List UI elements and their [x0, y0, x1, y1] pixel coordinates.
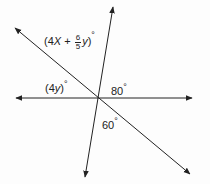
angle-diagram: (4X + 65y)° (4y)° 80° 60° — [0, 0, 210, 184]
angle-value: 60 — [102, 119, 114, 131]
fraction-denominator: 5 — [75, 43, 81, 51]
degree-symbol: ° — [114, 116, 118, 126]
angle-value: 80 — [111, 85, 123, 97]
fraction: 65 — [75, 34, 81, 51]
angle-label-bottom: 60° — [102, 120, 118, 131]
degree-symbol: ° — [91, 30, 95, 40]
diagonal-line — [15, 28, 190, 174]
label-text: + — [61, 35, 74, 47]
label-text: (4 — [44, 35, 54, 47]
degree-symbol: ° — [123, 82, 127, 92]
lines-svg — [0, 0, 210, 184]
label-text: (4 — [45, 82, 55, 94]
angle-label-right: 80° — [111, 86, 127, 97]
steep-line — [85, 7, 113, 177]
angle-label-left: (4y)° — [45, 83, 68, 94]
angle-label-top: (4X + 65y)° — [44, 34, 95, 51]
degree-symbol: ° — [64, 79, 68, 89]
